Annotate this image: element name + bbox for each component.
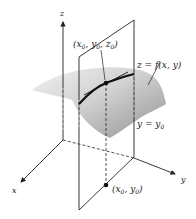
point-x0-y0-z0	[104, 81, 109, 86]
surface-equation-label: z = f(x, y)	[136, 60, 182, 70]
point-3d-label: (x0, y0, z0)	[73, 39, 118, 50]
x-axis	[21, 140, 63, 182]
y-axis-hidden	[63, 140, 134, 158]
y-axis-label: y	[180, 175, 186, 184]
x-axis-label: x	[12, 186, 17, 195]
point-2d-label: (x0, y0)	[112, 184, 143, 195]
partial-derivative-diagram: z x y (x0, y0, z0) z = f(x, y) y = y0 (x…	[0, 0, 196, 219]
y-axis	[134, 158, 175, 174]
z-axis-label: z	[59, 9, 65, 18]
plane-equation-label: y = y0	[136, 119, 164, 130]
point-x0-y0	[104, 183, 109, 188]
